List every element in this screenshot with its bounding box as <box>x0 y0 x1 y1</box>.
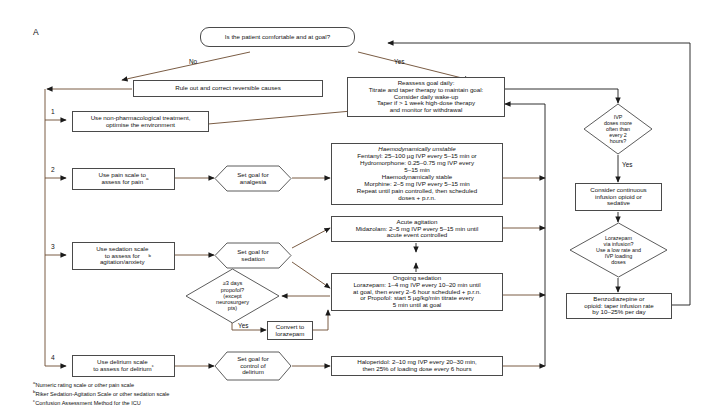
node-goal-analgesia-label: Set goal for analgesia <box>214 165 292 192</box>
row-number-3: 3 <box>51 243 55 250</box>
node-rule-out[interactable]: Rule out and correct reversible causes <box>133 80 323 97</box>
node-pain-scale[interactable]: Use pain scale to assess for paina <box>72 168 175 190</box>
node-ivp-decision-label: IVP doses more often than every 2 hours? <box>583 103 653 155</box>
node-non-pharmacological[interactable]: Use non-pharmacological treatment, optim… <box>72 111 209 132</box>
node-convert-to-lorazepam[interactable]: Convert to lorazepam <box>267 321 313 340</box>
footnote-c-text: Confusion Assessment Method for the ICU <box>35 400 141 406</box>
node-acute-agitation[interactable]: Acute agitation Midazolam: 2–5 mg IVP ev… <box>331 216 503 242</box>
edge-label-yes-propofol: Yes <box>238 322 248 329</box>
flowchart-canvas: A Is the patient comfortable and at goal… <box>0 0 703 413</box>
edge-label-yes-ivp: Yes <box>622 161 632 168</box>
edge-label-yes-top: Yes <box>394 58 404 65</box>
node-delirium-scale-text: Use delirium scale to assess for deliriu… <box>93 359 151 373</box>
panel-letter: A <box>33 27 39 37</box>
footnote-b: bRiker Sedation-Agitation Scale or other… <box>33 389 169 398</box>
node-sedation-scale-text: Use sedation scale to assess for agitati… <box>96 246 148 267</box>
node-taper-infusion[interactable]: Benzodiazepine or opioid: taper infusion… <box>566 293 672 319</box>
node-goal-sedation-label: Set goal for sedation <box>214 242 292 269</box>
footnote-b-text: Riker Sedation-Agitation Scale or other … <box>35 391 169 397</box>
node-continuous-infusion[interactable]: Consider continuous infusion opioid or s… <box>575 183 662 211</box>
footnote-ref-c: c <box>152 364 154 369</box>
footnote-c: cConfusion Assessment Method for the ICU <box>33 398 169 407</box>
node-goal-delirium[interactable]: Set goal for control of delirium <box>214 351 292 381</box>
footnotes: aNumeric rating scale or other pain scal… <box>33 380 169 407</box>
node-ivp-decision[interactable]: IVP doses more often than every 2 hours? <box>583 103 653 155</box>
analgesia-unstable-body: Fentanyl: 25–100 µg IVP every 5–15 min o… <box>357 153 476 174</box>
node-lorazepam-infusion-label: Lorazepam via infusion? Use a low rate a… <box>569 222 668 278</box>
row-number-4: 4 <box>51 354 55 361</box>
node-delirium-scale[interactable]: Use delirium scale to assess for deliriu… <box>72 355 175 377</box>
node-top-decision[interactable]: Is the patient comfortable and at goal? <box>200 27 355 47</box>
node-goal-analgesia[interactable]: Set goal for analgesia <box>214 165 292 192</box>
node-ongoing-sedation[interactable]: Ongoing sedation Lorazepam: 1–4 mg IVP e… <box>331 273 503 311</box>
node-lorazepam-infusion-decision[interactable]: Lorazepam via infusion? Use a low rate a… <box>569 222 668 278</box>
row-number-2: 2 <box>51 166 55 173</box>
analgesia-stable-body: Morphine: 2–5 mg IVP every 5–15 min Repe… <box>357 181 477 202</box>
node-propofol-decision-label: ≥3 days propofol? (except neurosurgery p… <box>185 268 280 324</box>
node-analgesia-regimen[interactable]: Haemodynamically unstable Fentanyl: 25–1… <box>331 143 503 205</box>
node-reassess-goal[interactable]: Reassess goal daily: Titrate and taper t… <box>347 77 505 117</box>
footnote-ref-a: a <box>146 177 148 182</box>
node-propofol-decision[interactable]: ≥3 days propofol? (except neurosurgery p… <box>185 268 280 324</box>
edge-label-no: No <box>189 58 197 65</box>
node-goal-delirium-label: Set goal for control of delirium <box>214 351 292 381</box>
footnote-a: aNumeric rating scale or other pain scal… <box>33 380 169 389</box>
footnote-a-text: Numeric rating scale or other pain scale <box>35 382 134 388</box>
node-haloperidol[interactable]: Haloperidol: 2–10 mg IVP every 20–30 min… <box>331 356 503 376</box>
node-sedation-scale[interactable]: Use sedation scale to assess for agitati… <box>72 242 175 270</box>
row-number-1: 1 <box>51 108 55 115</box>
node-goal-sedation[interactable]: Set goal for sedation <box>214 242 292 269</box>
footnote-ref-b: b <box>148 254 150 259</box>
node-pain-scale-text: Use pain scale to assess for pain <box>99 172 146 186</box>
